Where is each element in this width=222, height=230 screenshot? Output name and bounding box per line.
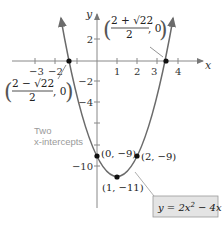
svg-text:x-intercepts: x-intercepts [34,136,83,147]
label-vertex: (1, −11) [102,182,144,193]
curve-arrow-left [61,18,62,24]
y-axis-label: y [85,8,93,21]
svg-text:Two: Two [34,125,51,136]
svg-text:2: 2 [134,66,140,77]
point-left-intercept [66,58,71,63]
svg-text:): ) [159,17,168,42]
curve-arrow-right [172,18,173,24]
svg-text:−3: −3 [29,66,44,77]
point-vertex [114,174,119,179]
svg-text:−10: −10 [72,161,93,172]
svg-text:−2: −2 [78,76,93,87]
svg-text:): ) [65,79,74,104]
svg-text:3: 3 [151,66,157,77]
point-right-intercept [163,58,168,63]
svg-text:1: 1 [114,66,120,77]
x-tick-labels: −3 −2 1 2 3 4 [29,66,181,77]
svg-text:2 + √22: 2 + √22 [111,14,153,26]
y-tick-labels: 2 −2 −4 −10 [72,34,93,172]
equation-label: y = 2x2 − 4x − 9 [157,201,222,213]
label-y-intercept: (0, −9) [101,148,136,159]
label-symmetric-point: (2, −9) [141,151,176,162]
svg-text:2 − √22: 2 − √22 [12,77,54,89]
svg-text:2: 2 [87,34,93,45]
point-y-intercept [94,153,99,158]
svg-text:4: 4 [175,66,181,77]
parabola-graph: −3 −2 1 2 3 4 2 −2 −4 −10 x y ( 2 − √22 … [0,0,222,230]
label-right-intercept: ( 2 + √22 2 , 0 ) [103,14,168,42]
svg-text:2: 2 [126,28,133,40]
x-axis-label: x [205,59,212,72]
two-intercepts-annotation: Two x-intercepts [34,125,83,147]
label-left-intercept: ( 2 − √22 2 , 0 ) [4,77,74,104]
leader-right-intercept [150,47,163,57]
svg-text:2: 2 [29,91,36,103]
svg-text:−4: −4 [78,97,93,108]
